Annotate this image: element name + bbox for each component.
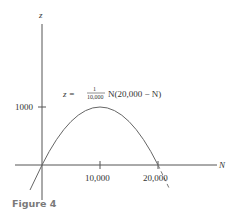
equation-rhs: N(20,000 − N) — [108, 89, 161, 99]
n-axis-label: N — [218, 160, 226, 170]
equation-denominator: 10,000 — [87, 94, 104, 100]
equation-label: z = 1 10,000 N(20,000 − N) — [62, 86, 161, 100]
equation-lhs: z = — [62, 89, 75, 99]
z-axis-label: z — [38, 10, 43, 20]
chart-canvas: z N 1000 10,000 20,000 z = 1 10,000 N(20… — [0, 0, 235, 213]
tick-label-10000: 10,000 — [85, 173, 110, 183]
equation-numerator: 1 — [93, 86, 96, 92]
tick-label-1000: 1000 — [15, 102, 34, 112]
tick-label-20000: 20,000 — [143, 173, 168, 183]
figure-caption: Figure 4 — [12, 198, 56, 209]
